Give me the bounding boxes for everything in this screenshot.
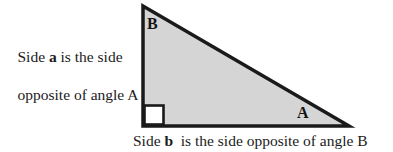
caption-bold-b: b bbox=[164, 132, 173, 149]
caption-bold-a: a bbox=[49, 48, 57, 65]
angle-label-b: B bbox=[147, 16, 158, 32]
angle-label-a: A bbox=[297, 105, 309, 121]
triangle-diagram-page: B A Side a is the side opposite of angle… bbox=[0, 0, 393, 152]
caption-text: is the side opposite of angle B bbox=[173, 132, 368, 149]
caption-text: Side bbox=[18, 48, 49, 65]
caption-side-a: Side a is the side opposite of angle A bbox=[2, 28, 138, 123]
triangle-shape bbox=[143, 6, 349, 126]
caption-text: is the side bbox=[57, 48, 123, 65]
right-angle-marker-icon bbox=[145, 106, 164, 125]
caption-text: Side bbox=[133, 132, 164, 149]
caption-side-a-line2: opposite of angle A bbox=[18, 86, 139, 103]
caption-side-b: Side b is the side opposite of angle B bbox=[133, 131, 368, 150]
caption-side-a-line1: Side a is the side bbox=[18, 48, 123, 65]
